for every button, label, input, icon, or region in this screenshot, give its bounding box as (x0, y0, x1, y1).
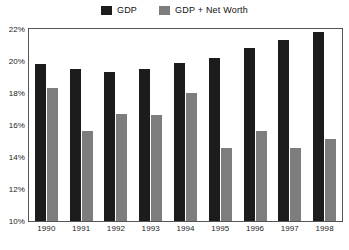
bar-gdp-net-worth (116, 114, 127, 221)
x-axis-tick-label: 1998 (316, 224, 334, 233)
bar-group (104, 29, 127, 221)
bar-gdp-net-worth (256, 131, 267, 221)
y-axis-tick-label: 12% (9, 185, 25, 194)
bar-gdp (278, 40, 289, 221)
bar-group (70, 29, 93, 221)
bar-gdp (35, 64, 46, 221)
legend-entry-gdp: GDP (101, 5, 137, 15)
bar-group (139, 29, 162, 221)
bar-gdp (70, 69, 81, 221)
bar-group (35, 29, 58, 221)
bar-gdp (244, 48, 255, 221)
bar-group (209, 29, 232, 221)
bar-chart: GDP GDP + Net Worth 10%12%14%16%18%20%22… (0, 0, 349, 250)
y-axis-tick-label: 14% (9, 153, 25, 162)
bar-group (244, 29, 267, 221)
x-axis-tick-label: 1992 (107, 224, 125, 233)
y-axis-tick-label: 18% (9, 89, 25, 98)
bar-gdp (104, 72, 115, 221)
bar-gdp (313, 32, 324, 221)
bar-gdp-net-worth (82, 131, 93, 221)
bar-gdp-net-worth (290, 148, 301, 221)
legend-swatch-gdp (101, 6, 112, 15)
y-axis-tick-label: 20% (9, 57, 25, 66)
y-axis-tick-label: 16% (9, 121, 25, 130)
x-axis-tick-label: 1990 (37, 224, 55, 233)
bar-gdp-net-worth (221, 148, 232, 221)
bar-gdp-net-worth (325, 139, 336, 221)
y-axis: 10%12%14%16%18%20%22% (0, 28, 28, 222)
x-axis-tick-label: 1991 (72, 224, 90, 233)
bar-gdp-net-worth (151, 115, 162, 221)
bar-gdp (139, 69, 150, 221)
legend-swatch-gdp-net-worth (159, 6, 170, 15)
x-axis-tick-label: 1997 (281, 224, 299, 233)
bar-gdp-net-worth (186, 93, 197, 221)
bar-group (174, 29, 197, 221)
x-axis-tick-label: 1993 (142, 224, 160, 233)
bar-gdp (209, 58, 220, 221)
x-axis-tick-label: 1995 (211, 224, 229, 233)
bar-group (313, 29, 336, 221)
x-axis-tick-label: 1996 (246, 224, 264, 233)
bar-group (278, 29, 301, 221)
chart-legend: GDP GDP + Net Worth (0, 2, 349, 18)
bar-gdp-net-worth (47, 88, 58, 221)
x-axis: 199019911992199319941995199619971998 (29, 224, 342, 240)
legend-label-gdp: GDP (117, 5, 137, 15)
y-axis-tick-label: 10% (9, 217, 25, 226)
legend-entry-gdp-net-worth: GDP + Net Worth (159, 5, 248, 15)
bars-layer (29, 29, 342, 221)
y-axis-tick-label: 22% (9, 25, 25, 34)
legend-label-gdp-net-worth: GDP + Net Worth (175, 5, 248, 15)
bar-gdp (174, 63, 185, 221)
x-axis-tick-label: 1994 (176, 224, 194, 233)
